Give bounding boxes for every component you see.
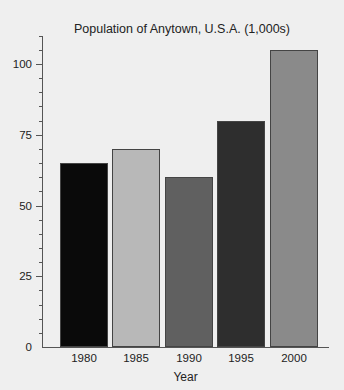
x-tick-label: 1980 [58, 352, 110, 364]
y-minor-tick [39, 248, 42, 249]
y-tick-label: 50 [0, 200, 32, 212]
plot-area: 025507510019801985199019952000 [0, 0, 344, 390]
y-axis [42, 36, 43, 347]
y-minor-tick [39, 191, 42, 192]
x-axis-label: Year [42, 370, 329, 384]
bar-1980 [60, 163, 108, 347]
y-minor-tick [39, 106, 42, 107]
y-major-tick [36, 276, 42, 277]
y-minor-tick [39, 220, 42, 221]
y-minor-tick [39, 50, 42, 51]
y-minor-tick [39, 319, 42, 320]
y-tick-label: 75 [0, 129, 32, 141]
y-minor-tick [39, 121, 42, 122]
y-major-tick [36, 64, 42, 65]
y-minor-tick [39, 36, 42, 37]
bar-1995 [217, 121, 265, 347]
y-major-tick [36, 135, 42, 136]
y-minor-tick [39, 333, 42, 334]
x-axis [42, 347, 329, 348]
y-minor-tick [39, 149, 42, 150]
y-minor-tick [39, 305, 42, 306]
bar-1985 [112, 149, 160, 347]
y-minor-tick [39, 234, 42, 235]
y-minor-tick [39, 92, 42, 93]
x-tick-label: 2000 [268, 352, 320, 364]
y-minor-tick [39, 177, 42, 178]
y-tick-label: 0 [0, 341, 32, 353]
y-tick-label: 100 [0, 58, 32, 70]
y-major-tick [36, 206, 42, 207]
bar-1990 [165, 177, 213, 347]
x-tick-label: 1990 [163, 352, 215, 364]
x-tick-label: 1985 [110, 352, 162, 364]
y-minor-tick [39, 163, 42, 164]
y-minor-tick [39, 262, 42, 263]
x-tick-label: 1995 [215, 352, 267, 364]
y-minor-tick [39, 290, 42, 291]
y-tick-label: 25 [0, 270, 32, 282]
bar-2000 [270, 50, 318, 347]
y-minor-tick [39, 78, 42, 79]
